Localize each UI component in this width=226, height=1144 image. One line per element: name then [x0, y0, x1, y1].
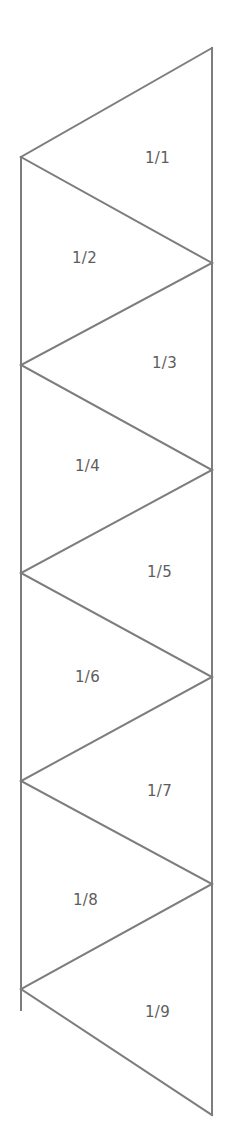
zigzag-polyline: [21, 48, 212, 1115]
triangle-label-1: 1/1: [145, 151, 170, 166]
triangle-label-3: 1/3: [152, 356, 177, 371]
triangle-label-9: 1/9: [145, 1005, 170, 1020]
triangle-label-5: 1/5: [147, 565, 172, 580]
triangle-strip-graphic: [0, 0, 226, 1144]
triangle-label-7: 1/7: [147, 784, 172, 799]
triangle-label-2: 1/2: [72, 251, 97, 266]
diagram-canvas: 1/1 1/2 1/3 1/4 1/5 1/6 1/7 1/8 1/9: [0, 0, 226, 1144]
triangle-label-6: 1/6: [75, 670, 100, 685]
triangle-label-8: 1/8: [73, 893, 98, 908]
triangle-label-4: 1/4: [75, 459, 100, 474]
